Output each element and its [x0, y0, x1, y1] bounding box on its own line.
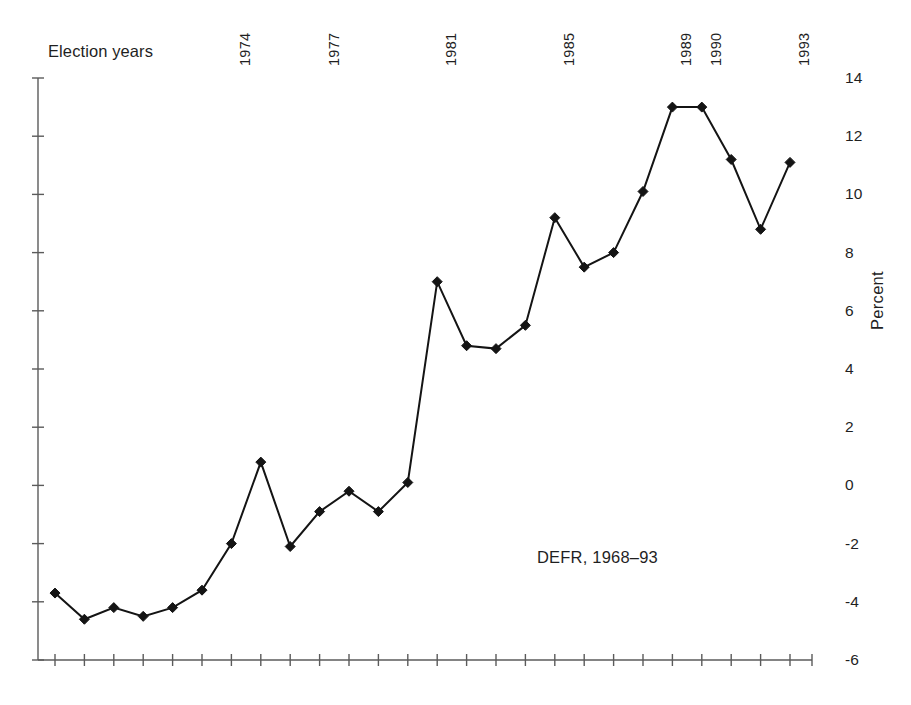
data-point-marker — [138, 611, 148, 621]
chart-container: Election years Percent DEFR, 1968–93 197… — [0, 0, 911, 705]
plot-area — [0, 0, 911, 705]
data-point-marker — [432, 277, 442, 287]
series-line — [55, 107, 790, 619]
data-point-marker — [697, 102, 707, 112]
data-point-marker — [256, 457, 266, 467]
data-point-marker — [785, 157, 795, 167]
data-point-marker — [226, 539, 236, 549]
data-point-marker — [462, 341, 472, 351]
data-point-marker — [197, 585, 207, 595]
data-point-marker — [168, 603, 178, 613]
data-point-marker — [667, 102, 677, 112]
data-point-marker — [579, 262, 589, 272]
data-point-marker — [609, 248, 619, 258]
data-point-marker — [756, 224, 766, 234]
data-point-marker — [109, 603, 119, 613]
data-point-marker — [638, 186, 648, 196]
data-series — [50, 102, 795, 624]
data-point-marker — [726, 154, 736, 164]
axes — [32, 78, 812, 666]
data-point-marker — [550, 213, 560, 223]
